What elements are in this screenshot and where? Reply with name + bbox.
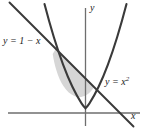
parabola-equation-exponent: 2 <box>126 75 130 83</box>
parabola-equation-label: y = x2 <box>105 76 129 87</box>
line-equation-label: y = 1 − x <box>3 36 40 46</box>
parabola-equation-base: y = x <box>105 76 126 87</box>
y-axis-label: y <box>90 3 94 13</box>
figure-container: y = 1 − x y = x2 y x <box>0 0 145 133</box>
plot-canvas <box>0 0 145 133</box>
line-curve <box>10 3 134 127</box>
x-axis-label: x <box>131 111 135 121</box>
